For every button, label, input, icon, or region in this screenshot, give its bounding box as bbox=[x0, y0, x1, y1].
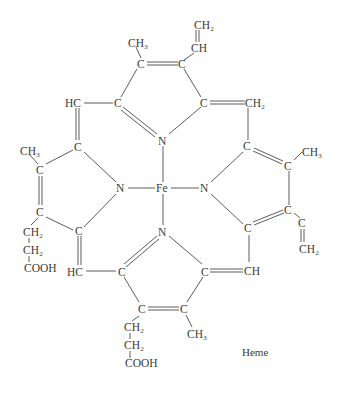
bond-left-prop-1 bbox=[31, 218, 38, 225]
heme-structure-diagram: CH₂ CH CH₃ C C C C HC CH₂ N Fe N N N CH₃… bbox=[0, 0, 342, 396]
atom-right-c-beta-bottom: C bbox=[284, 204, 292, 216]
atom-bottom-c-beta-left: C bbox=[138, 303, 146, 315]
atom-left-c-beta-bottom: C bbox=[36, 206, 44, 218]
atom-bottom-prop-ch2-2: CH₂ bbox=[124, 339, 144, 351]
atom-bottom-methyl: CH₃ bbox=[187, 328, 207, 340]
atom-fe: Fe bbox=[156, 182, 168, 194]
atom-meso-top-left: HC bbox=[65, 97, 81, 109]
atom-n-right: N bbox=[200, 182, 209, 194]
bond-bottom-n-calpha-right bbox=[169, 236, 202, 264]
atom-bottom-prop-ch2-1: CH₂ bbox=[124, 321, 144, 333]
atom-bottom-prop-cooh: COOH bbox=[125, 357, 158, 369]
atom-n-top: N bbox=[158, 135, 167, 147]
bond-right-cc-bottom-double-b bbox=[254, 213, 284, 225]
atom-meso-bottom-right: CH bbox=[244, 265, 260, 277]
bond-right-cc-double-a bbox=[254, 148, 283, 161]
atom-left-c-alpha-bottom: C bbox=[75, 225, 83, 237]
atom-top-methyl: CH₃ bbox=[128, 37, 148, 49]
bond-left-calpha-bottom-n bbox=[84, 194, 116, 227]
bond-bottom-n-calpha-left-b bbox=[126, 239, 159, 267]
bond-right-methyl bbox=[294, 152, 302, 160]
bonds bbox=[29, 30, 304, 358]
atom-n-bottom: N bbox=[158, 226, 167, 238]
atom-left-prop-ch2-1: CH₂ bbox=[23, 226, 43, 238]
bond-top-calpha-n-left-a bbox=[123, 107, 157, 134]
bond-top-left-ring bbox=[121, 69, 137, 97]
atom-right-vinyl-c: C bbox=[298, 217, 306, 229]
atom-meso-bottom-left: HC bbox=[67, 266, 83, 278]
diagram-caption: Heme bbox=[242, 346, 268, 358]
bond-top-right-ring bbox=[184, 69, 201, 97]
atom-left-c-alpha-top: C bbox=[74, 141, 82, 153]
atom-vinyl1-ch: CH bbox=[191, 42, 207, 54]
atom-meso-top-right: CH₂ bbox=[245, 97, 265, 109]
bond-bottom-right-ring bbox=[187, 277, 203, 302]
atom-bottom-c-alpha-right: C bbox=[201, 266, 209, 278]
atom-bottom-c-alpha-left: C bbox=[118, 266, 126, 278]
atom-n-left: N bbox=[116, 182, 125, 194]
bond-bottom-methyl bbox=[186, 315, 192, 327]
bond-right-calpha-n bbox=[211, 152, 243, 182]
atom-top-c-alpha-left: C bbox=[114, 97, 122, 109]
bond-right-cc-double-b bbox=[253, 151, 282, 164]
atom-top-c-alpha-right: C bbox=[200, 97, 208, 109]
bond-right-calpha-bottom-n bbox=[211, 194, 243, 224]
atom-left-methyl: CH₃ bbox=[20, 145, 40, 157]
bond-right-cc-bottom-double-a bbox=[253, 210, 283, 222]
bond-top-calpha-n-right bbox=[169, 107, 201, 134]
atom-right-c-alpha-top: C bbox=[243, 140, 251, 152]
atom-left-prop-ch2-2: CH₂ bbox=[23, 244, 43, 256]
bond-left-calpha-n bbox=[84, 152, 116, 182]
bond-top-calpha-n-left-b bbox=[121, 110, 155, 137]
atom-bottom-c-beta-right: C bbox=[180, 303, 188, 315]
atom-left-prop-cooh: COOH bbox=[24, 262, 57, 274]
atom-right-c-beta-top: C bbox=[284, 160, 292, 172]
bond-bottom-left-ring bbox=[124, 277, 139, 302]
atom-right-c-alpha-bottom: C bbox=[244, 222, 252, 234]
bond-bottom-n-calpha-left-a bbox=[124, 236, 157, 264]
atom-top-c1: C bbox=[137, 58, 145, 70]
atom-labels: CH₂ CH CH₃ C C C C HC CH₂ N Fe N N N CH₃… bbox=[20, 19, 322, 369]
bond-left-cbeta-calpha-bottom bbox=[46, 217, 73, 230]
atom-right-methyl: CH₃ bbox=[302, 146, 322, 158]
atom-right-vinyl-ch2: CH₂ bbox=[299, 243, 319, 255]
atom-top-c2: C bbox=[178, 58, 186, 70]
atom-left-c-beta-top: C bbox=[36, 164, 44, 176]
atom-vinyl1-ch2: CH₂ bbox=[194, 19, 214, 31]
bond-left-calpha-cbeta bbox=[46, 150, 73, 164]
